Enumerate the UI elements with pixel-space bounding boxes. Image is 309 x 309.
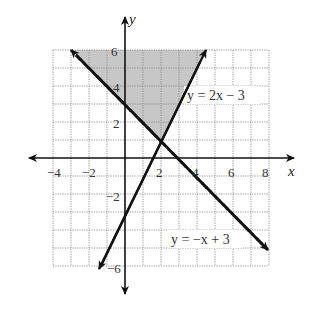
- x-tick-label: 6: [228, 165, 235, 180]
- coordinate-plane: −4 −2 2 4 6 8 6 4 2 −2 −6 x y y = 2x − 3…: [0, 0, 309, 309]
- x-tick-label: 8: [262, 165, 269, 180]
- y-tick-label: 6: [111, 44, 118, 59]
- y-tick-label: −2: [106, 189, 120, 204]
- solid-line-equation-label: y = 2x − 3: [187, 88, 245, 103]
- y-tick-label: 2: [113, 116, 120, 131]
- x-axis-label: x: [287, 163, 295, 179]
- x-tick-label: −4: [47, 165, 61, 180]
- y-axis-label: y: [127, 11, 136, 27]
- x-tick-label: −2: [82, 165, 96, 180]
- y-tick-label: 4: [113, 80, 120, 95]
- x-tick-label: 4: [192, 165, 199, 180]
- dashed-line-equation-label: y = −x + 3: [171, 232, 230, 247]
- x-tick-label: 2: [156, 165, 163, 180]
- y-tick-label: −6: [107, 261, 121, 276]
